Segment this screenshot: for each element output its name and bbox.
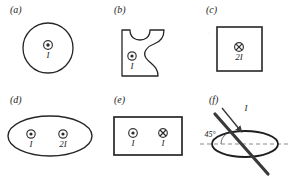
panel-f-angle-label: 45°	[204, 130, 216, 139]
amperian-loop-circle	[23, 23, 73, 73]
panel-f-current-label: I	[244, 103, 249, 113]
dot-circle-icon	[27, 130, 35, 138]
panel-e-label: (e)	[114, 94, 125, 105]
angle-arc	[221, 134, 227, 144]
panel-f-label: (f)	[209, 94, 218, 105]
panel-d: (d) I 2I	[0, 92, 105, 184]
physics-figure-amperian-loops: (a) I (b) I (c)	[0, 0, 294, 184]
panel-b-label: (b)	[114, 4, 126, 15]
dot-circle-icon	[128, 52, 136, 60]
dot-circle-icon	[129, 129, 138, 138]
panel-b: (b) I	[96, 0, 192, 92]
panel-d-current-label-2: 2I	[59, 139, 68, 149]
panel-d-current-label-1: I	[29, 139, 34, 149]
panel-b-current-label: I	[130, 61, 135, 71]
panel-a: (a) I	[0, 0, 100, 92]
cross-circle-icon	[159, 129, 168, 138]
panel-e: (e) I I	[105, 92, 195, 184]
amperian-loop-ellipse	[212, 131, 278, 157]
amperian-loop-square	[217, 27, 262, 71]
current-wire	[215, 114, 268, 174]
amperian-loop-irregular	[122, 30, 164, 76]
panel-d-label: (d)	[10, 94, 22, 105]
panel-f-diagram: I 45°	[195, 92, 294, 184]
panel-f: (f) I 45°	[195, 92, 294, 184]
panel-e-current-label-1: I	[131, 138, 136, 148]
panel-c-label: (c)	[206, 4, 217, 15]
panel-e-diagram: I I	[105, 92, 195, 184]
current-direction-arrow	[222, 108, 240, 130]
dot-circle-icon	[44, 41, 53, 50]
amperian-loop-rectangle	[114, 117, 182, 155]
cross-circle-icon	[235, 43, 244, 52]
panel-b-diagram: I	[96, 0, 192, 92]
panel-e-current-label-2: I	[161, 138, 166, 148]
panel-d-diagram: I 2I	[0, 92, 105, 184]
panel-c-current-label: 2I	[235, 52, 244, 62]
dot-circle-icon	[59, 130, 67, 138]
amperian-loop-ellipse	[8, 116, 92, 156]
panel-c: (c) 2I	[192, 0, 294, 92]
panel-a-label: (a)	[10, 4, 22, 15]
panel-a-current-label: I	[46, 50, 51, 60]
